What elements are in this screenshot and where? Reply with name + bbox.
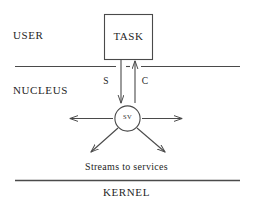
diagram-canvas: USER NUCLEUS KERNEL TASK SV Streams to s… — [0, 0, 253, 204]
stream-arrow-down-left — [91, 128, 118, 152]
layer-label-nucleus: NUCLEUS — [13, 85, 68, 96]
streams-to-services-label: Streams to services — [0, 162, 253, 172]
stream-arrow-down-right — [137, 128, 165, 152]
layer-label-user: USER — [13, 30, 44, 41]
send-arrow-label: S — [101, 77, 111, 87]
layer-label-kernel: KERNEL — [0, 187, 253, 198]
task-box-label: TASK — [104, 31, 153, 42]
call-arrow-label: C — [140, 77, 150, 87]
sv-node-label: SV — [114, 114, 141, 121]
